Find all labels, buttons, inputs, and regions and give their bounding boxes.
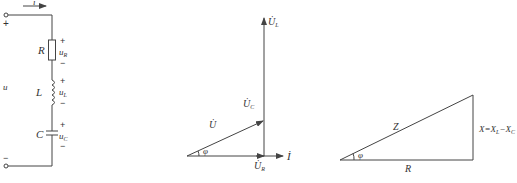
hypotenuse-label: Z: [393, 121, 399, 132]
phasor-angle-label: φ: [203, 146, 208, 156]
phi-arc: [198, 151, 199, 156]
inductor-icon: [52, 80, 55, 105]
bottom-terminal-icon: [4, 164, 8, 168]
bottom-terminal-sign: −: [3, 153, 8, 163]
series-rlc-circuit: i + R + uR − L + uL − u C + uC −: [3, 0, 69, 168]
impedance-triangle: φ Z R X=XL−XC: [340, 95, 516, 174]
resistor-voltage-label: uR: [59, 47, 68, 58]
capacitor-label: C: [36, 128, 44, 140]
svg-text:+: +: [60, 36, 65, 46]
ur-phasor-label: U̇R: [254, 160, 265, 172]
svg-text:−: −: [60, 141, 65, 151]
u-phasor-arrow: [187, 121, 263, 156]
i-phasor-label: İ: [286, 150, 292, 162]
phasor-diagram: φ U̇ U̇C U̇L U̇R İ: [187, 16, 292, 172]
svg-text:+: +: [60, 76, 65, 86]
svg-text:−: −: [60, 58, 65, 68]
svg-text:−: −: [60, 98, 65, 108]
capacitor-icon: [46, 131, 58, 135]
top-terminal-sign: +: [3, 18, 9, 29]
base-label: R: [404, 163, 411, 174]
top-terminal-icon: [4, 13, 8, 17]
ul-phasor-label: U̇L: [268, 16, 279, 28]
resistor-label: R: [37, 44, 45, 56]
svg-text:+: +: [60, 120, 65, 130]
u-phasor-label: U̇: [209, 119, 217, 130]
phi-arc: [353, 154, 354, 161]
side-label: X=XL−XC: [478, 124, 516, 135]
resistor-icon: [49, 40, 56, 60]
source-voltage-label: u: [3, 82, 8, 92]
inductor-voltage-label: uL: [59, 87, 68, 98]
uc-phasor-label: U̇C: [243, 98, 255, 110]
rlc-diagram: i + R + uR − L + uL − u C + uC −: [0, 0, 517, 183]
inductor-label: L: [35, 86, 42, 98]
triangle-angle-label: φ: [358, 150, 363, 160]
